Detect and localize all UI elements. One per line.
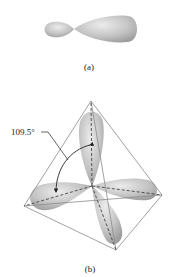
hybrid-orbital-a — [45, 16, 138, 43]
caption-a: (a) — [84, 62, 94, 72]
orbital-diagram: (a) 109.5° (b) — [0, 0, 172, 277]
large-lobe — [74, 16, 137, 43]
small-lobe — [45, 22, 75, 38]
angle-label: 109.5° — [11, 127, 35, 137]
angle-leader — [41, 132, 68, 160]
lobe-left — [30, 182, 92, 210]
caption-b: (b) — [85, 264, 96, 274]
